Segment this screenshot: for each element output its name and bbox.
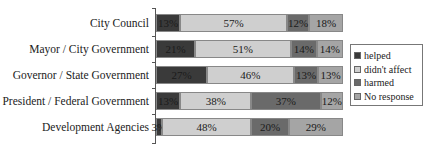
legend-item: No response bbox=[354, 90, 419, 104]
bar-segment: 51% bbox=[195, 40, 290, 58]
bar-segment: 21% bbox=[156, 40, 195, 58]
bar-segment: 13% bbox=[156, 92, 180, 110]
legend-label: harmed bbox=[364, 77, 394, 88]
bar-segment: 12% bbox=[321, 92, 343, 110]
bar-segment: 46% bbox=[207, 66, 294, 84]
legend-swatch-icon bbox=[354, 93, 361, 100]
legend-swatch-icon bbox=[354, 66, 361, 73]
bar-segment: 18% bbox=[309, 14, 343, 32]
bar-segment: 14% bbox=[291, 40, 317, 58]
legend-swatch-icon bbox=[354, 79, 361, 86]
stacked-bar: 21%51%14%14% bbox=[156, 40, 343, 58]
bar-segment: 12% bbox=[287, 14, 309, 32]
legend-swatch-icon bbox=[354, 52, 361, 59]
bar-segment: 14% bbox=[317, 40, 343, 58]
axis-tick bbox=[152, 8, 156, 9]
category-label: Governor / State Government bbox=[13, 66, 149, 84]
legend-item: didn't affect bbox=[354, 63, 419, 77]
bar-segment: 29% bbox=[289, 118, 343, 136]
category-label: President / Federal Government bbox=[2, 92, 149, 110]
legend-item: harmed bbox=[354, 76, 419, 90]
bar-segment: 48% bbox=[162, 118, 252, 136]
bar-segment: 20% bbox=[251, 118, 288, 136]
stacked-bar: 13%38%37%12% bbox=[156, 92, 343, 110]
axis-tick bbox=[152, 143, 156, 144]
legend-label: No response bbox=[364, 91, 414, 102]
axis-tick bbox=[152, 36, 156, 37]
legend: helpeddidn't affectharmedNo response bbox=[350, 44, 423, 106]
category-label: Development Agencies bbox=[42, 118, 149, 136]
stacked-bar: 27%46%13%13% bbox=[156, 66, 343, 84]
bar-segment: 57% bbox=[180, 14, 287, 32]
stacked-bar: 3%48%20%29% bbox=[156, 118, 343, 136]
stacked-bar: 13%57%12%18% bbox=[156, 14, 343, 32]
bar-segment: 37% bbox=[251, 92, 320, 110]
legend-label: helped bbox=[364, 50, 391, 61]
axis-tick bbox=[152, 114, 156, 115]
bar-segment: 27% bbox=[156, 66, 207, 84]
bar-segment: 13% bbox=[156, 14, 180, 32]
bar-segment: 13% bbox=[294, 66, 319, 84]
axis-tick bbox=[152, 88, 156, 89]
category-label: Mayor / City Government bbox=[29, 40, 149, 58]
bar-segment: 13% bbox=[318, 66, 343, 84]
legend-label: didn't affect bbox=[364, 64, 411, 75]
axis-tick bbox=[152, 62, 156, 63]
legend-item: helped bbox=[354, 49, 419, 63]
bar-segment: 38% bbox=[180, 92, 251, 110]
category-label: City Council bbox=[90, 14, 149, 32]
